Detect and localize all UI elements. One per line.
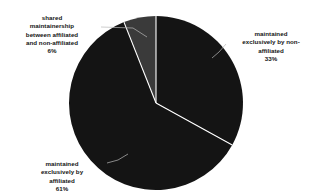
pie-label-affiliated: maintained exclusively by affiliated 61%: [18, 152, 106, 193]
pie-label-shared-text: shared maintainership between affiliated…: [26, 14, 78, 46]
pie-label-affiliated-text: maintained exclusively by affiliated: [41, 160, 83, 183]
pie-label-non-affiliated-text: maintained exclusively by non- affiliate…: [242, 30, 299, 53]
pie-label-affiliated-percent: 61%: [18, 185, 106, 193]
pie-chart: shared maintainership between affiliated…: [0, 0, 318, 193]
pie-label-non-affiliated-percent: 33%: [228, 55, 314, 63]
pie-label-shared: shared maintainership between affiliated…: [4, 6, 100, 63]
pie-label-non-affiliated: maintained exclusively by non- affiliate…: [228, 22, 314, 71]
pie-label-shared-percent: 6%: [4, 47, 100, 55]
